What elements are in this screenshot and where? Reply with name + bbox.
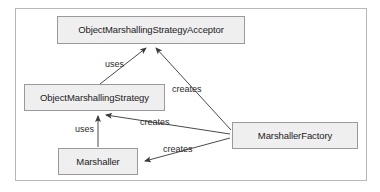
node-label: ObjectMarshallingStrategy (40, 93, 149, 103)
node-label: MarshallerFactory (258, 131, 332, 141)
node-object-marshalling-strategy[interactable]: ObjectMarshallingStrategy (24, 84, 165, 111)
node-label: ObjectMarshallingStrategyAcceptor (78, 25, 224, 35)
node-marshaller[interactable]: Marshaller (58, 148, 138, 175)
node-marshaller-factory[interactable]: MarshallerFactory (232, 122, 358, 149)
edge-label-factory-creates-marshaller: creates (163, 145, 193, 154)
node-object-marshalling-strategy-acceptor[interactable]: ObjectMarshallingStrategyAcceptor (57, 16, 245, 44)
diagram-canvas: ObjectMarshallingStrategyAcceptor Object… (0, 0, 380, 192)
edge-label-marshaller-uses-strategy: uses (75, 125, 94, 134)
edge-label-factory-creates-acceptor: creates (172, 85, 202, 94)
edge-label-strategy-uses-acceptor: uses (105, 60, 124, 69)
edge-label-factory-creates-strategy: creates (140, 118, 170, 127)
node-label: Marshaller (76, 157, 119, 167)
